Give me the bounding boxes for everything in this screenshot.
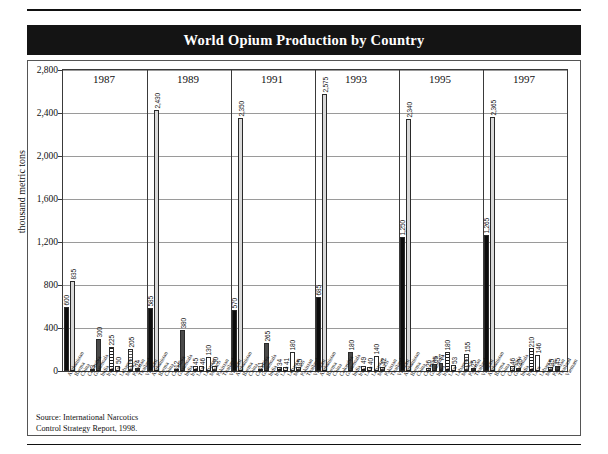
page-title: World Opium Production by Country (184, 32, 425, 49)
y-tick (58, 113, 63, 114)
y-tick (58, 371, 63, 372)
y-tick-label: 400 (44, 323, 58, 333)
y-tick-label: 1,600 (37, 194, 58, 204)
chart-title-banner: World Opium Production by Country (27, 25, 581, 55)
bar-1989-burma (154, 110, 159, 371)
bar-value-label: 2,340 (405, 102, 412, 118)
group-label-1991: 1991 (230, 69, 314, 89)
bar-1995-burma (406, 119, 411, 371)
bar-1997-burma (490, 117, 495, 371)
bar-value-label: 180 (289, 340, 296, 350)
bar-value-label: 2,350 (237, 101, 244, 117)
bar-value-label: 225 (108, 335, 115, 345)
group-label-1997: 1997 (482, 69, 566, 89)
bar-1997-afghanistan (484, 235, 489, 371)
y-tick-label: 1,200 (37, 237, 58, 247)
bar-value-label: 155 (463, 342, 470, 352)
bar-value-label: 835 (69, 269, 76, 279)
y-tick (58, 328, 63, 329)
source-note: Source: International Narcotics Control … (36, 412, 138, 434)
y-tick-label: 2,400 (37, 108, 58, 118)
bar-value-label: 50 (114, 357, 121, 364)
bar-1993-burma (322, 94, 327, 371)
bar-value-label: 380 (179, 318, 186, 328)
bar-value-label: 2,430 (153, 93, 160, 109)
source-line-2: Control Strategy Report, 1998. (36, 423, 138, 434)
y-tick-label: 800 (44, 280, 58, 290)
bar-value-label: 265 (263, 331, 270, 341)
bar-value-label: 130 (205, 345, 212, 355)
bar-1987-afghanistan (64, 307, 69, 372)
bar-value-label: 1,265 (483, 218, 490, 234)
bar-value-label: 46 (198, 358, 205, 365)
bar-value-label: 300 (95, 327, 102, 337)
y-tick (58, 285, 63, 286)
group-label-1989: 1989 (146, 69, 230, 89)
bar-1995-afghanistan (400, 237, 405, 371)
bar-value-label: 570 (231, 298, 238, 308)
bar-value-label: 53 (450, 357, 457, 364)
plot-area: 600835330022550205245852,430123804546130… (62, 69, 568, 372)
bar-value-label: 205 (127, 337, 134, 347)
source-line-1: Source: International Narcotics (36, 412, 138, 423)
bottom-divider (27, 444, 581, 445)
y-tick (58, 199, 63, 200)
y-tick (58, 242, 63, 243)
bar-value-label: 2,365 (489, 100, 496, 116)
page-root: World Opium Production by Country thousa… (0, 0, 608, 454)
group-label-1995: 1995 (398, 69, 482, 89)
bar-1991-burma (238, 118, 243, 371)
bar-value-label: 1,250 (399, 220, 406, 236)
y-tick (58, 156, 63, 157)
bar-value-label: 146 (534, 343, 541, 353)
y-tick-label: 2,000 (37, 151, 58, 161)
bar-value-label: 685 (315, 285, 322, 295)
bar-value-label: 140 (373, 344, 380, 354)
top-divider (27, 9, 581, 11)
group-label-1993: 1993 (314, 69, 398, 89)
y-axis-labels: 04008001,2001,6002,0002,4002,800 (14, 69, 58, 372)
bar-value-label: 180 (347, 340, 354, 350)
bar-value-label: 585 (147, 296, 154, 306)
bar-value-label: 600 (63, 295, 70, 305)
y-tick-label: 2,800 (37, 65, 58, 75)
bar-value-label: 180 (444, 340, 451, 350)
group-label-1987: 1987 (62, 69, 146, 89)
